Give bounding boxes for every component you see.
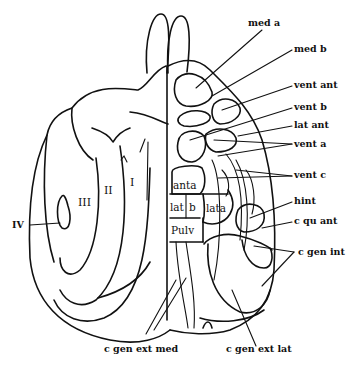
label-vent-b: vent b xyxy=(293,101,327,112)
leader-hint xyxy=(250,202,292,218)
zone-label-ii: II xyxy=(104,184,113,197)
inner-label-b: b xyxy=(189,201,196,213)
leader-med-b xyxy=(212,50,292,96)
bottom-labels: c gen ext med c gen ext lat xyxy=(104,343,292,354)
inner-label-lata: lata xyxy=(206,202,226,214)
label-med-a: med a xyxy=(248,17,280,28)
left-hemisphere xyxy=(29,66,170,342)
leader-c-gen-int-2 xyxy=(262,252,294,286)
leader-vent-ant xyxy=(222,86,292,110)
zone-label-i: I xyxy=(130,176,134,189)
label-c-gen-ext-med: c gen ext med xyxy=(104,343,178,354)
leader-c-gen-ext-med-2 xyxy=(154,278,186,330)
zone-label-iii: III xyxy=(78,196,91,209)
inner-label-lat: lat xyxy=(170,201,185,213)
leader-c-gen-ext-med-1 xyxy=(146,280,176,334)
leader-vent-c-2 xyxy=(218,176,292,178)
leader-vent-a-1 xyxy=(214,140,292,144)
inner-labels: anta lat b lata Pulv xyxy=(170,179,226,236)
leader-med-a xyxy=(196,30,262,88)
label-c-gen-ext-lat: c gen ext lat xyxy=(226,343,292,354)
leader-lat-ant xyxy=(238,126,292,136)
inner-label-anta: anta xyxy=(173,179,197,191)
label-lat-ant: lat ant xyxy=(294,119,330,130)
inner-label-pulv: Pulv xyxy=(171,224,194,236)
label-c-gen-int: c gen int xyxy=(298,246,346,257)
label-med-b: med b xyxy=(294,43,327,54)
label-vent-a: vent a xyxy=(293,138,326,149)
thalamus-diagram: med a med b vent ant vent b lat ant vent… xyxy=(0,0,352,366)
right-labels: med a med b vent ant vent b lat ant vent… xyxy=(248,17,346,257)
leader-iv xyxy=(30,223,60,225)
anterior-bulbs xyxy=(146,14,189,73)
label-vent-ant: vent ant xyxy=(293,79,338,90)
label-vent-c: vent c xyxy=(293,169,326,180)
zone-labels: I II III xyxy=(78,176,134,209)
leader-vent-c-1 xyxy=(236,170,292,176)
leader-c-qu-ant xyxy=(262,222,292,228)
label-iv: IV xyxy=(12,219,24,230)
label-hint: hint xyxy=(294,195,316,206)
right-thalamus xyxy=(168,61,275,334)
label-c-qu-ant: c qu ant xyxy=(294,215,338,226)
leader-lines xyxy=(30,30,294,346)
